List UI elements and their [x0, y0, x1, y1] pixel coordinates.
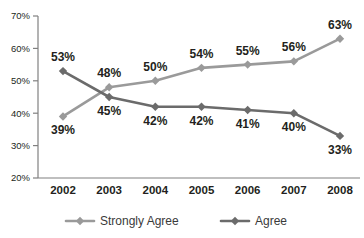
x-axis-category-label: 2005	[189, 184, 215, 196]
legend-diamond-marker-icon	[76, 217, 84, 225]
y-axis-tick-label: 40%	[11, 108, 31, 119]
y-axis-tick-label: 70%	[11, 10, 31, 21]
diamond-marker-icon	[336, 34, 344, 42]
diamond-marker-icon	[151, 103, 159, 111]
legend-diamond-marker-icon	[231, 217, 239, 225]
data-point-label: 48%	[97, 66, 121, 80]
data-point-label: 50%	[143, 60, 167, 74]
x-axis-category-label: 2006	[235, 184, 261, 196]
diamond-marker-icon	[243, 60, 251, 68]
y-axis-tick-labels: 20%30%40%50%60%70%	[11, 10, 31, 183]
x-axis-category-label: 2008	[327, 184, 353, 196]
data-point-labels: 39%48%50%54%55%56%63%53%45%42%42%41%40%3…	[51, 18, 352, 157]
data-point-label: 41%	[236, 117, 260, 131]
data-point-label: 45%	[97, 104, 121, 118]
diamond-marker-icon	[151, 77, 159, 85]
data-point-label: 39%	[51, 123, 75, 137]
data-point-label: 55%	[236, 44, 260, 58]
y-axis-tick-label: 20%	[11, 172, 31, 183]
data-point-label: 40%	[282, 120, 306, 134]
y-axis-tick-label: 30%	[11, 140, 31, 151]
diamond-marker-icon	[243, 106, 251, 114]
chart-plot-area: 20%30%40%50%60%70% 39%48%50%54%55%56%63%…	[0, 0, 364, 238]
x-axis-category-labels: 2002200320042005200620072008	[50, 184, 353, 196]
data-point-label: 42%	[189, 114, 213, 128]
y-axis-tick-label: 60%	[11, 43, 31, 54]
diamond-marker-icon	[290, 109, 298, 117]
y-axis-ticks	[33, 16, 38, 178]
diamond-marker-icon	[197, 64, 205, 72]
data-point-label: 63%	[328, 18, 352, 32]
data-point-label: 56%	[282, 40, 306, 54]
data-point-label: 33%	[328, 143, 352, 157]
y-axis-tick-label: 50%	[11, 75, 31, 86]
legend-item-label-1[interactable]: Strongly Agree	[100, 214, 179, 228]
diamond-marker-icon	[197, 103, 205, 111]
x-axis-category-label: 2007	[281, 184, 307, 196]
x-axis-category-label: 2004	[143, 184, 169, 196]
diamond-marker-icon	[336, 132, 344, 140]
diamond-marker-icon	[290, 57, 298, 65]
line-chart: 20%30%40%50%60%70% 39%48%50%54%55%56%63%…	[0, 0, 364, 238]
data-point-label: 53%	[51, 50, 75, 64]
data-point-label: 42%	[143, 114, 167, 128]
legend-item-label-2[interactable]: Agree	[255, 214, 287, 228]
chart-legend: Strongly AgreeAgree	[66, 214, 287, 228]
x-axis-category-label: 2003	[96, 184, 122, 196]
x-axis-category-label: 2002	[50, 184, 76, 196]
data-point-label: 54%	[189, 47, 213, 61]
